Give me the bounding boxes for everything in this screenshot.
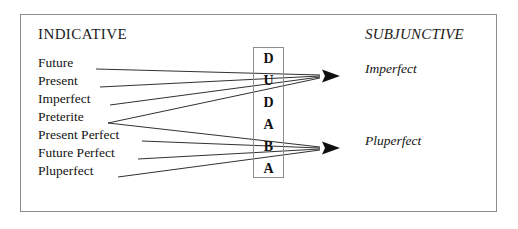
mnemonic-letter-4: B (253, 140, 284, 154)
indicative-item-2: Imperfect (38, 92, 90, 106)
indicative-item-3: Preterite (38, 110, 84, 124)
mnemonic-letter-3: A (253, 118, 284, 132)
heading-indicative: INDICATIVE (38, 26, 127, 43)
indicative-item-6: Pluperfect (38, 164, 93, 178)
indicative-item-4: Present Perfect (38, 128, 119, 142)
mnemonic-letter-0: D (253, 52, 284, 66)
subjunctive-item-1: Pluperfect (365, 134, 421, 148)
heading-subjunctive: SUBJUNCTIVE (365, 26, 464, 43)
mnemonic-letter-5: A (253, 162, 284, 176)
diagram-root: INDICATIVE SUBJUNCTIVE FuturePresentImpe… (0, 0, 518, 229)
indicative-item-5: Future Perfect (38, 146, 115, 160)
dudaba-mnemonic-box (253, 47, 284, 178)
indicative-item-1: Present (38, 74, 78, 88)
subjunctive-item-0: Imperfect (365, 62, 417, 76)
mnemonic-letter-1: U (253, 74, 284, 88)
mnemonic-letter-2: D (253, 96, 284, 110)
indicative-item-0: Future (38, 56, 73, 70)
